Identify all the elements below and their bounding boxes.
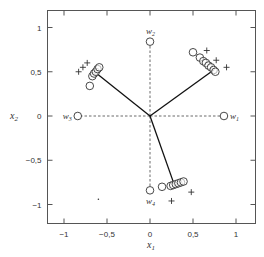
weight-vector <box>150 116 174 184</box>
y-tick-label: 0,5 <box>30 68 42 77</box>
y-axis-label: x2 <box>9 110 18 123</box>
initial-weight-marker <box>74 112 82 120</box>
weight-label-w1: w1 <box>230 111 239 122</box>
weight-vector <box>150 70 214 116</box>
initial-weight-marker <box>146 187 154 195</box>
input-sample-marker <box>213 57 219 63</box>
weight-label-w3: w3 <box>63 111 72 122</box>
x-tick-label: −1 <box>59 230 69 239</box>
initial-weight-marker <box>220 112 228 120</box>
x-tick-label: 0 <box>148 230 153 239</box>
x-axis-label: x1 <box>146 239 155 252</box>
axis-ticks: −1−0,500,5110,50−0,5−1 <box>26 11 256 239</box>
input-sample-marker <box>76 69 82 75</box>
trajectory-marker <box>95 64 103 72</box>
input-sample-marker <box>224 64 230 70</box>
input-sample-marker <box>84 60 90 66</box>
weight-label-w2: w2 <box>146 26 155 37</box>
trajectory-marker <box>180 178 188 186</box>
trajectory-marker <box>212 68 220 76</box>
final-weight-vectors <box>97 70 214 184</box>
weight-label-w4: w4 <box>146 196 155 207</box>
input-sample-marker <box>204 48 210 54</box>
trajectory-marker <box>189 48 197 56</box>
trajectory-marker <box>86 82 94 90</box>
input-sample-marker <box>169 198 175 204</box>
figure: −1−0,500,5110,50−0,5−1 w1w2w3w4 x1 x2 <box>0 0 264 257</box>
input-sample-marker <box>80 64 86 70</box>
dot-marker <box>98 198 100 200</box>
initial-weight-marker <box>146 38 154 46</box>
trajectory-marker <box>158 183 166 191</box>
y-tick-label: 1 <box>37 24 42 33</box>
y-tick-label: −1 <box>32 201 42 210</box>
y-tick-label: 0 <box>37 112 42 121</box>
x-tick-label: 0,5 <box>187 230 199 239</box>
input-sample-marker <box>188 189 194 195</box>
weight-vector <box>97 74 150 116</box>
x-tick-label: 1 <box>234 230 239 239</box>
x-tick-label: −0,5 <box>99 230 115 239</box>
y-tick-label: −0,5 <box>26 156 42 165</box>
